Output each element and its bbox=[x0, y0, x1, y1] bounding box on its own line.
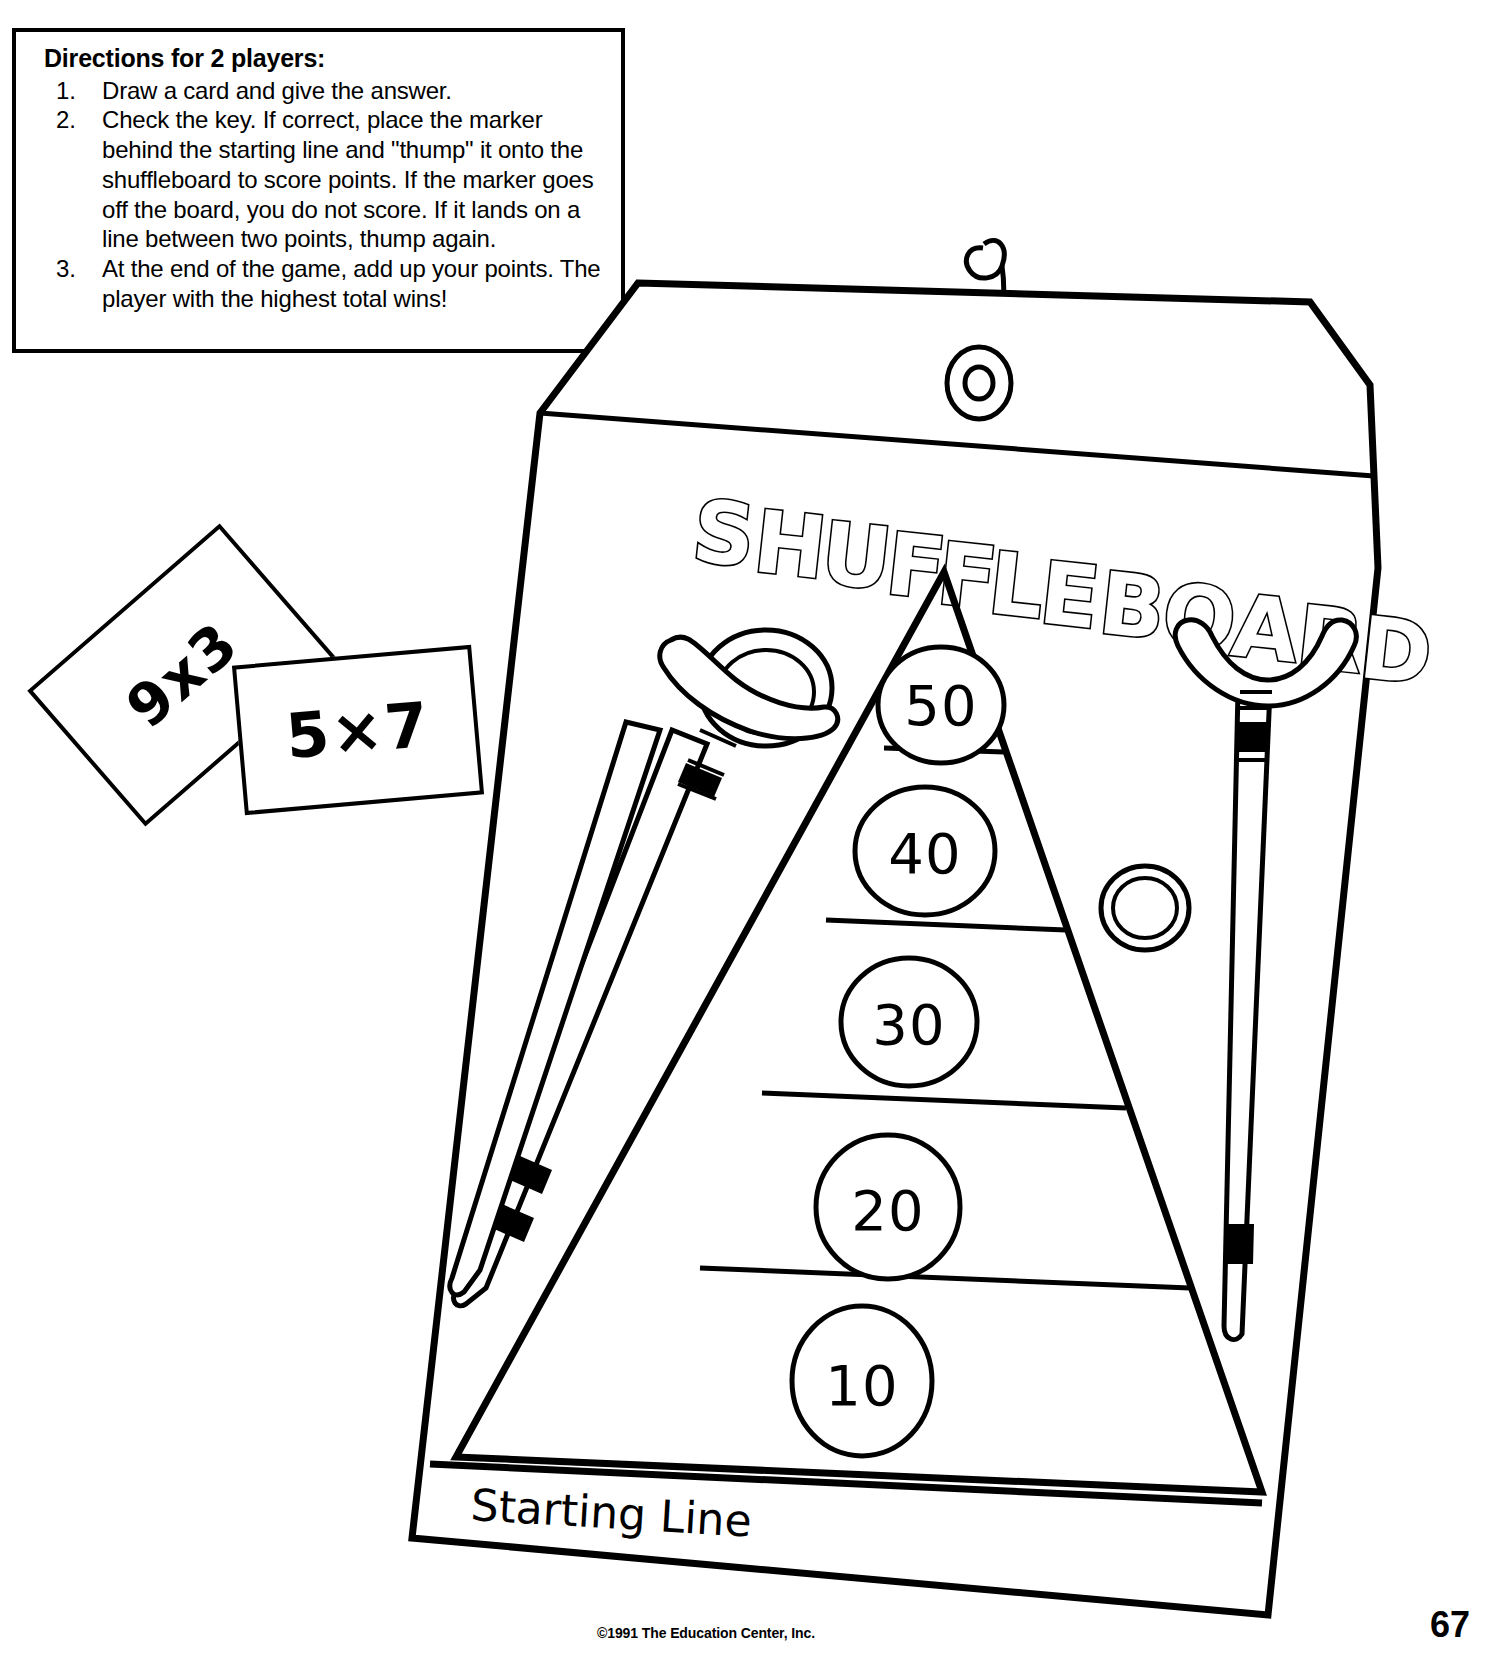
shuffleboard-puck-left[interactable] bbox=[700, 630, 832, 746]
directions-list: 1. Draw a card and give the answer. 2. C… bbox=[44, 76, 611, 314]
score-value-10: 10 bbox=[825, 1353, 898, 1418]
title-letter-e: E bbox=[1035, 542, 1104, 648]
title-letter-f1: F bbox=[881, 514, 950, 620]
title-letter-l: L bbox=[984, 533, 1049, 638]
cue-left-band-low-b bbox=[492, 1204, 534, 1242]
cue-left-ring-b bbox=[678, 784, 716, 799]
cue-right-band-low bbox=[1227, 1224, 1254, 1264]
board-outline bbox=[412, 283, 1378, 1615]
starting-line-label: Starting Line bbox=[469, 1479, 753, 1547]
direction-text-1: Draw a card and give the answer. bbox=[102, 77, 452, 104]
cue-left-band-top bbox=[678, 763, 722, 797]
directions-title: Directions for 2 players: bbox=[44, 44, 611, 74]
direction-item-3: 3. At the end of the game, add up your p… bbox=[44, 254, 611, 314]
cue-left-collar bbox=[700, 730, 736, 746]
score-value-50: 50 bbox=[904, 673, 977, 738]
worksheet-page: Directions for 2 players: 1. Draw a card… bbox=[0, 0, 1493, 1657]
page-number: 67 bbox=[1430, 1604, 1470, 1646]
cue-right-shaft bbox=[1224, 690, 1270, 1340]
score-value-30: 30 bbox=[872, 992, 945, 1057]
direction-number-2: 2. bbox=[56, 105, 96, 135]
cue-left-band-low-a bbox=[510, 1156, 552, 1194]
shuffleboard-cue-right[interactable] bbox=[1175, 620, 1356, 1340]
shuffleboard-cue-left-second[interactable] bbox=[450, 722, 660, 1295]
title-letter-b: B bbox=[1094, 553, 1170, 659]
title-letter-a: A bbox=[1227, 575, 1304, 682]
score-value-20: 20 bbox=[851, 1178, 924, 1243]
direction-text-2: Check the key. If correct, place the mar… bbox=[102, 106, 594, 252]
zone-divider-5-4 bbox=[884, 748, 1004, 752]
title-letter-r: R bbox=[1292, 586, 1369, 693]
directions-box: Directions for 2 players: 1. Draw a card… bbox=[12, 28, 625, 353]
flash-card-5x7[interactable]: 5×7 bbox=[232, 645, 484, 815]
flash-card-face: 5×7 bbox=[283, 687, 433, 772]
zone-divider-4-3 bbox=[826, 920, 1066, 930]
direction-text-3: At the end of the game, add up your poin… bbox=[102, 255, 601, 312]
cue-left-ring-a bbox=[688, 760, 724, 775]
board-top-band-line bbox=[540, 413, 1374, 476]
direction-number-3: 3. bbox=[56, 254, 96, 284]
title-letter-f2: F bbox=[933, 523, 1002, 629]
score-zone-40: 40 bbox=[855, 787, 995, 915]
shuffleboard-puck-right[interactable] bbox=[1101, 866, 1189, 950]
score-zone-50: 50 bbox=[878, 647, 1004, 763]
direction-number-1: 1. bbox=[56, 76, 96, 106]
cue-left-second-shaft bbox=[450, 722, 660, 1295]
starting-line-rule bbox=[430, 1464, 1262, 1503]
title-letter-h: H bbox=[749, 491, 831, 598]
title-letter-s: S bbox=[688, 480, 760, 586]
playfield-triangle bbox=[456, 572, 1262, 1492]
title-letter-o: O bbox=[1158, 564, 1241, 671]
cue-right-band-top bbox=[1238, 722, 1269, 752]
copyright-notice: ©1991 The Education Center, Inc. bbox=[597, 1625, 815, 1641]
cue-left-head bbox=[660, 637, 838, 738]
score-zone-20: 20 bbox=[816, 1135, 960, 1279]
title-letter-u: U bbox=[816, 502, 896, 609]
direction-item-2: 2. Check the key. If correct, place the … bbox=[44, 105, 611, 254]
flash-card-face: 9x3 bbox=[113, 609, 251, 742]
cue-right-head bbox=[1175, 620, 1356, 706]
direction-item-1: 1. Draw a card and give the answer. bbox=[44, 76, 611, 106]
cue-left-shaft bbox=[454, 730, 707, 1306]
score-value-40: 40 bbox=[888, 821, 961, 886]
shuffleboard-cue-left[interactable] bbox=[454, 637, 838, 1306]
zone-divider-2-1 bbox=[700, 1268, 1190, 1288]
score-zone-30: 30 bbox=[841, 958, 977, 1086]
score-zone-10: 10 bbox=[792, 1306, 932, 1456]
title-letter-d: D bbox=[1355, 597, 1437, 704]
wire-hook-icon bbox=[962, 241, 1004, 396]
zone-divider-3-2 bbox=[762, 1093, 1126, 1108]
board-title: S H U F F L E B O A R D bbox=[683, 480, 1442, 704]
grommet-eyelet-icon bbox=[947, 347, 1011, 419]
